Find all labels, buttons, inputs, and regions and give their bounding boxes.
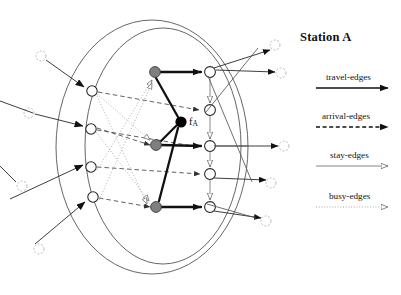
travel-edge: [161, 145, 201, 146]
outgoing-travel-edges: [214, 50, 278, 218]
outside-left-node: [34, 244, 44, 254]
travel-edge: [156, 78, 178, 117]
legend-label-busy-edges: busy-edges: [329, 191, 370, 201]
incoming-travel-edges: [10, 60, 85, 244]
node-label-fa-subscript: A: [193, 119, 198, 128]
busy-edge: [97, 94, 150, 140]
inside-left-nodes: [86, 86, 98, 202]
outside-right-node: [266, 178, 276, 188]
gray-node: [151, 140, 162, 151]
black-node-fa: [175, 116, 186, 127]
platform-nodes: [150, 67, 187, 213]
travel-edge: [214, 178, 266, 180]
station-node-left: [86, 162, 96, 172]
arrival-edges: [97, 92, 200, 207]
internal-travel-edges: [156, 72, 201, 207]
station-node-right: [205, 105, 216, 116]
gray-node: [150, 67, 161, 78]
arrival-edge: [97, 128, 150, 145]
outside-right-node: [276, 68, 286, 78]
station-node-right: [205, 202, 216, 213]
outside-right-node: [279, 141, 289, 151]
page-title: Station A: [300, 30, 351, 45]
station-node-right: [205, 67, 216, 78]
arrival-edge: [98, 92, 199, 110]
busy-edge: [97, 96, 147, 204]
travel-edge: [214, 50, 270, 68]
gray-node: [151, 202, 162, 213]
legend-label-travel-edges: travel-edges: [326, 72, 371, 82]
outside-right-node: [261, 216, 271, 226]
diagram-root: Station A travel-edges arrival-edges sta…: [0, 0, 401, 295]
travel-edge: [46, 60, 84, 87]
legend: [316, 88, 388, 207]
travel-edge: [216, 70, 275, 72]
busy-edge: [97, 80, 152, 170]
station-node-left: [86, 124, 96, 134]
crossing-line: [206, 48, 258, 112]
arrival-edge: [99, 198, 150, 207]
station-node-left: [87, 86, 97, 96]
station-node-right: [205, 141, 216, 152]
station-node-left: [88, 192, 98, 202]
outside-right-node: [270, 40, 280, 50]
arrival-edge: [97, 167, 200, 174]
node-label-fa: fA: [189, 116, 198, 128]
travel-edge: [161, 126, 176, 141]
station-node-right: [205, 169, 216, 180]
crossing-line: [208, 76, 252, 182]
legend-label-stay-edges: stay-edges: [330, 150, 369, 160]
outside-left-node: [36, 51, 46, 61]
travel-edge-tail: [0, 101, 33, 113]
travel-edge-tail: [0, 166, 16, 182]
busy-edges: [96, 80, 152, 204]
travel-edge: [214, 211, 261, 218]
travel-edge: [35, 202, 85, 244]
outside-left-node: [17, 181, 27, 191]
legend-label-arrival-edges: arrival-edges: [322, 111, 370, 121]
